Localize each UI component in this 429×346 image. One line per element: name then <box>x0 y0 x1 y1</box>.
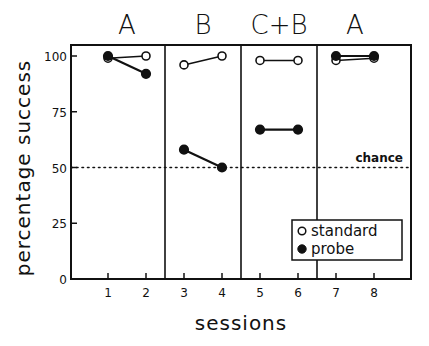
y-axis-ticks: 0255075100 <box>44 50 77 287</box>
y-tick-label: 100 <box>44 50 67 64</box>
open-circle-icon <box>298 227 306 235</box>
phase-label: C+B <box>251 10 308 40</box>
x-tick-label: 4 <box>218 286 226 300</box>
phase-label: A <box>118 10 136 40</box>
x-tick-label: 8 <box>370 286 378 300</box>
y-tick-label: 50 <box>52 162 67 176</box>
legend-label-probe: probe <box>311 240 354 258</box>
probe-point <box>332 52 341 61</box>
probe-point <box>294 125 303 134</box>
y-tick-label: 25 <box>52 217 67 231</box>
x-tick-label: 7 <box>332 286 340 300</box>
filled-circle-icon <box>298 245 306 253</box>
chart: ABC+BA 0255075100 12345678 chance standa… <box>0 0 429 346</box>
probe-point <box>370 52 379 61</box>
x-tick-label: 1 <box>104 286 112 300</box>
y-tick-label: 0 <box>59 273 67 287</box>
y-axis-title: percentage success <box>11 60 35 276</box>
legend: standardprobe <box>292 220 402 260</box>
probe-point <box>256 125 265 134</box>
y-tick-label: 75 <box>52 106 67 120</box>
probe-point <box>218 163 227 172</box>
chance-label: chance <box>355 151 403 165</box>
phase-labels: ABC+BA <box>118 10 364 40</box>
standard-point <box>256 56 264 64</box>
legend-label-standard: standard <box>311 222 378 240</box>
x-tick-label: 5 <box>256 286 264 300</box>
x-tick-label: 6 <box>294 286 302 300</box>
probe-point <box>142 70 151 79</box>
phase-label: A <box>346 10 364 40</box>
standard-point <box>142 52 150 60</box>
standard-point <box>180 61 188 69</box>
standard-point <box>218 52 226 60</box>
probe-point <box>104 52 113 61</box>
x-axis-title: sessions <box>195 311 287 335</box>
standard-point <box>294 56 302 64</box>
phase-label: B <box>194 10 211 40</box>
x-tick-label: 3 <box>180 286 188 300</box>
x-tick-label: 2 <box>142 286 150 300</box>
probe-point <box>180 145 189 154</box>
